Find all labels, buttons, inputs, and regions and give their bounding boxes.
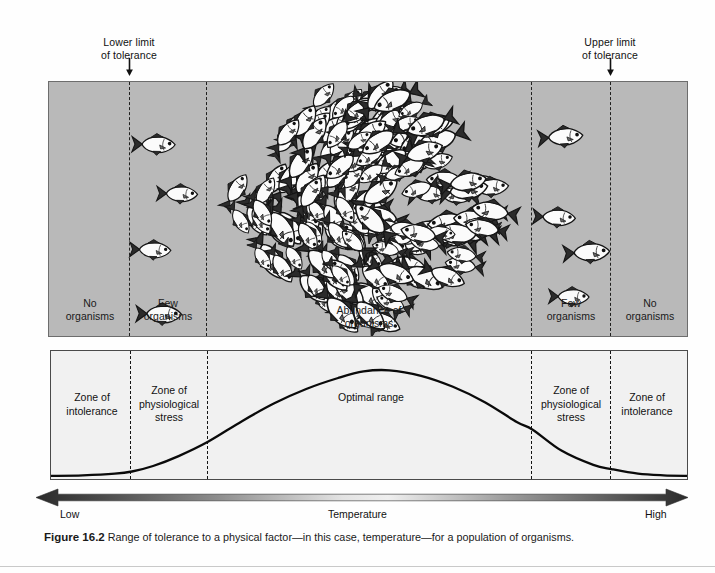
- page-footer-rule: [0, 566, 715, 567]
- fish-icon: [127, 238, 175, 261]
- fish-zone-label-few-organisms-left: Few organisms: [135, 297, 201, 323]
- fish-icon: [560, 238, 614, 265]
- fish-zone-label-no-organisms-right: No organisms: [617, 297, 683, 323]
- fish-icon: [529, 205, 579, 230]
- population-size-curve: [51, 351, 688, 480]
- fish-zone-label-no-organisms-left: No organisms: [57, 297, 123, 323]
- lower-limit-arrow-icon: [125, 58, 134, 76]
- figure-number: Figure 16.2: [44, 531, 105, 543]
- temperature-axis-title: Temperature: [0, 508, 715, 520]
- fish-zone-label-few-organisms-right: Few organisms: [537, 297, 605, 323]
- population-curve-panel: Zone of intolerance Zone of physiologica…: [50, 350, 688, 480]
- fish-zone-label-abundance-of-organisms: Abundance of organisms: [321, 304, 417, 330]
- fish-icon: [129, 132, 179, 156]
- figure-page: Lower limit of tolerance Upper limit of …: [0, 0, 715, 573]
- fish-icon: [535, 123, 588, 150]
- upper-limit-arrow-icon: [606, 58, 615, 76]
- fish-abundance-panel: No organisms Few organisms Abundance of …: [48, 81, 688, 337]
- temperature-gradient-arrow: [36, 488, 688, 507]
- figure-caption-text: Range of tolerance to a physical factor—…: [105, 531, 574, 543]
- temperature-high-label: High: [645, 508, 667, 520]
- figure-caption: Figure 16.2 Range of tolerance to a phys…: [44, 529, 604, 545]
- fish-icon: [153, 183, 200, 206]
